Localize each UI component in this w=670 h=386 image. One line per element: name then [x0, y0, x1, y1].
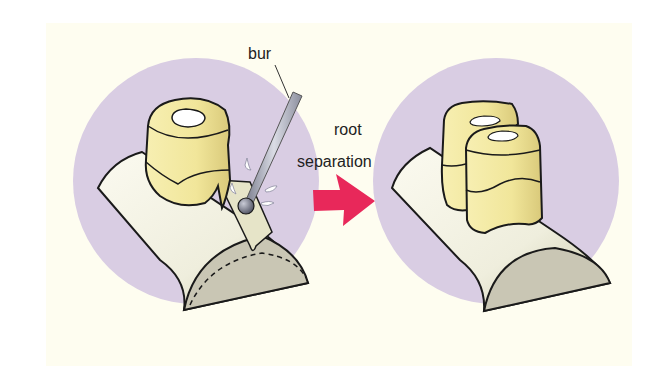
step-label-line1: root [334, 121, 362, 138]
step-arrow-icon [313, 174, 375, 226]
step-label-line2: separation [297, 153, 372, 170]
separated-root-front [466, 125, 542, 233]
before-panel: bur [73, 45, 319, 310]
after-panel [373, 58, 619, 311]
root-separation-diagram: bur root separation [0, 0, 670, 386]
bur-label: bur [248, 45, 272, 62]
